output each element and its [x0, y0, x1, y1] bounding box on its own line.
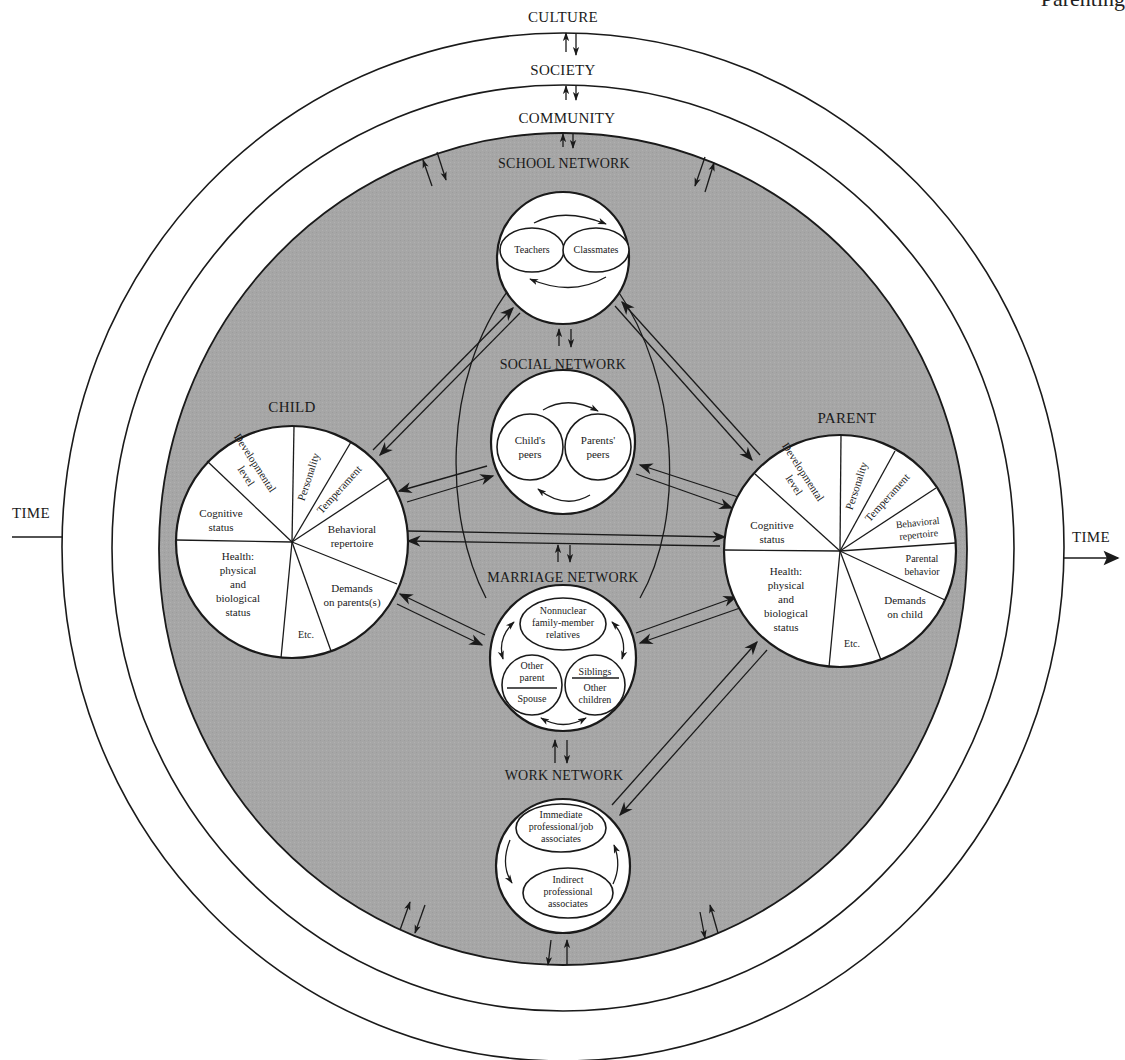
svg-text:Immediate: Immediate [540, 809, 583, 820]
child-title: CHILD [268, 399, 315, 415]
svg-text:Health:: Health: [770, 565, 802, 577]
svg-text:Etc.: Etc. [844, 638, 860, 649]
parents-peers-node [565, 414, 631, 480]
childs-peers-node [497, 414, 563, 480]
svg-text:peers: peers [518, 448, 541, 460]
svg-text:family-member: family-member [532, 617, 595, 628]
svg-text:Indirect: Indirect [552, 874, 583, 885]
svg-text:children: children [579, 694, 612, 705]
svg-text:Demands: Demands [331, 582, 373, 594]
svg-text:relatives: relatives [546, 629, 580, 640]
svg-text:Nonnuclear: Nonnuclear [540, 605, 587, 616]
svg-text:professional: professional [544, 886, 593, 897]
svg-text:status: status [208, 521, 233, 533]
svg-text:status: status [759, 533, 784, 545]
parent-title: PARENT [818, 410, 877, 426]
svg-text:Cognitive: Cognitive [750, 519, 794, 531]
culture-society-arrows [566, 33, 576, 55]
svg-text:Teachers: Teachers [514, 244, 549, 255]
school-network-title: SCHOOL NETWORK [498, 156, 630, 171]
svg-text:Child's: Child's [515, 434, 546, 446]
svg-text:Classmates: Classmates [574, 244, 619, 255]
svg-text:Other: Other [521, 660, 544, 671]
svg-text:Parental: Parental [906, 553, 939, 564]
svg-text:repertoire: repertoire [331, 537, 374, 549]
society-label: SOCIETY [530, 62, 595, 78]
svg-text:associates: associates [548, 898, 588, 909]
svg-text:behavior: behavior [905, 566, 941, 577]
society-community-arrows [566, 86, 576, 100]
svg-text:physical: physical [220, 564, 257, 576]
svg-text:Spouse: Spouse [518, 693, 547, 704]
svg-text:peers: peers [586, 448, 609, 460]
svg-text:status: status [225, 606, 250, 618]
culture-label: CULTURE [528, 9, 598, 25]
svg-text:Parents': Parents' [581, 434, 615, 446]
ecological-parenting-diagram: CULTURE SOCIETY COMMUNITY TIME TIME [0, 0, 1125, 1060]
svg-text:Other: Other [584, 682, 607, 693]
time-label-left: TIME [12, 505, 50, 521]
svg-text:Etc.: Etc. [298, 629, 314, 640]
svg-text:physical: physical [768, 579, 805, 591]
svg-text:on parents(s): on parents(s) [323, 596, 380, 609]
svg-text:biological: biological [216, 592, 260, 604]
svg-text:Behavioral: Behavioral [328, 523, 376, 535]
marriage-network-title: MARRIAGE NETWORK [487, 570, 638, 585]
svg-text:Demands: Demands [884, 594, 926, 606]
svg-text:Siblings: Siblings [579, 666, 612, 677]
svg-text:and: and [778, 593, 794, 605]
svg-text:associates: associates [541, 833, 581, 844]
svg-text:Cognitive: Cognitive [199, 507, 243, 519]
svg-text:Health:: Health: [222, 550, 254, 562]
community-label: COMMUNITY [519, 110, 616, 126]
svg-text:on child: on child [887, 608, 923, 620]
svg-text:status: status [773, 621, 798, 633]
work-network-title: WORK NETWORK [505, 768, 624, 783]
time-label-right: TIME [1072, 529, 1110, 545]
svg-text:parent: parent [520, 672, 545, 683]
svg-text:biological: biological [764, 607, 808, 619]
svg-text:and: and [230, 578, 246, 590]
svg-text:professional/job: professional/job [529, 821, 593, 832]
